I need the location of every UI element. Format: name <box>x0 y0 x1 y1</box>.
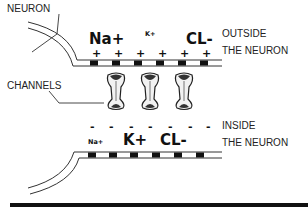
membrane-pump-block <box>152 153 160 158</box>
membrane-pump-block <box>90 61 98 66</box>
channels-pointer-line <box>49 91 59 103</box>
neuron-label: NEURON <box>7 3 50 14</box>
membrane-pump-block <box>156 61 164 66</box>
membrane-pump-block <box>200 61 208 66</box>
neuron-pointer-line <box>57 14 59 34</box>
negative-charge: - <box>188 120 193 133</box>
inside-label-line2: THE NEURON <box>222 137 288 148</box>
ion-channel <box>107 73 124 110</box>
membrane-pump-block <box>109 153 117 158</box>
inside-label-line1: INSIDE <box>222 120 256 131</box>
neuron-membrane-diagram: NEURON Na+ K+ CL- + + + + + + OUTSIDE TH… <box>0 0 308 207</box>
outside-charges: + + + + + + <box>92 47 211 60</box>
membrane-pump-block <box>112 61 120 66</box>
membrane-pump-block <box>130 153 138 158</box>
negative-charge: - <box>206 120 211 133</box>
membrane-pump-block <box>174 153 182 158</box>
outside-label-line1: OUTSIDE <box>222 28 267 39</box>
membrane-pump-block <box>196 153 204 158</box>
membrane-pump-block <box>134 61 142 66</box>
inner-membrane <box>28 152 222 194</box>
negative-charge: - <box>109 120 114 133</box>
negative-charge: - <box>90 120 95 133</box>
outside-ion-na: Na+ <box>89 30 124 48</box>
inside-ion-k: K+ <box>123 131 147 149</box>
outside-label-line2: THE NEURON <box>222 45 288 56</box>
positive-charge: + <box>92 47 101 60</box>
inside-ion-na: Na+ <box>88 138 103 146</box>
negative-charge: - <box>148 120 153 133</box>
outside-ion-cl: CL- <box>186 30 213 48</box>
bottom-rule <box>10 203 308 207</box>
inside-ion-cl: CL- <box>160 131 187 149</box>
positive-charge: + <box>180 47 189 60</box>
positive-charge: + <box>114 47 123 60</box>
inside-charges: - - - - - - - <box>90 120 211 133</box>
ion-channel <box>175 73 192 110</box>
membrane-pump-block <box>88 153 96 158</box>
positive-charge: + <box>158 47 167 60</box>
positive-charge: + <box>202 47 211 60</box>
membrane-pump-block <box>178 61 186 66</box>
outside-ion-k: K+ <box>145 30 155 38</box>
neuron-pointer-line-2 <box>32 34 57 52</box>
positive-charge: + <box>136 47 145 60</box>
channels-label: CHANNELS <box>7 80 62 91</box>
ion-channel <box>141 73 158 110</box>
